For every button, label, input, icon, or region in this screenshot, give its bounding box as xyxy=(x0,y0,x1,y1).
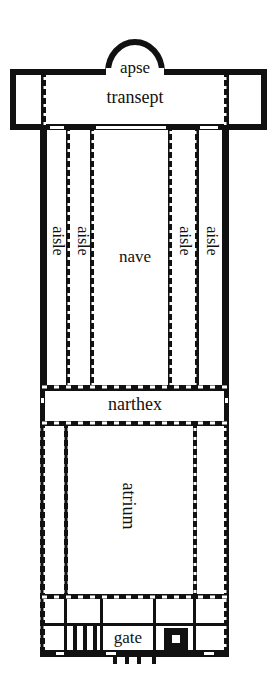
aisle-inner-right-label: aisle xyxy=(177,226,194,255)
nave-label: nave xyxy=(119,247,151,266)
narthex-label: narthex xyxy=(108,394,162,414)
aisle-outer-left-label: aisle xyxy=(50,226,67,255)
colonnade-outer-left xyxy=(66,128,70,388)
gate-label: gate xyxy=(114,628,142,647)
apse-label: apse xyxy=(120,58,150,77)
atrium-label: atrium xyxy=(119,483,139,530)
transept-label: transept xyxy=(107,87,164,107)
aisle-outer-right-label: aisle xyxy=(204,226,221,255)
aisle-inner-left-label: aisle xyxy=(75,226,92,255)
colonnade-inner-left xyxy=(90,128,94,388)
colonnade-outer-right xyxy=(195,128,199,388)
colonnade-inner-right xyxy=(168,128,172,388)
basilica-floor-plan: apse transept nave narthex aisle aisle a… xyxy=(0,0,278,690)
